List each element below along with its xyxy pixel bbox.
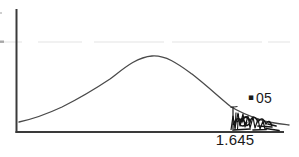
alpha-label: ▪ 05 (248, 91, 272, 105)
alpha-decimal-dot: ▪ (248, 90, 254, 104)
alpha-value: 05 (256, 91, 272, 105)
scan-artifact-mark (0, 41, 4, 43)
normal-curve-figure: ▪ 05 1.645 (0, 0, 299, 157)
critical-value-label: 1.645 (213, 132, 257, 147)
scan-artifact-mark (0, 12, 2, 14)
